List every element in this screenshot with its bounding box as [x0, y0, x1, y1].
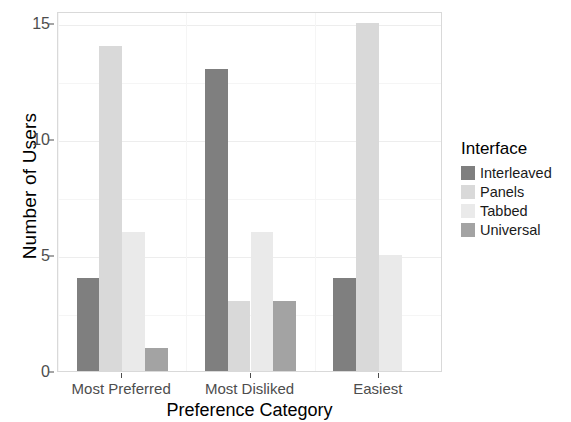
x-tick-mark-2: [378, 373, 379, 378]
y-tick-label-10: 10: [24, 131, 50, 149]
legend-swatch-tabbed: [461, 204, 475, 218]
bar-chart-figure: Number of Users 051015 Most PreferredMos…: [0, 0, 571, 422]
legend-swatch-panels: [461, 185, 475, 199]
bar-tabbed-most-preferred: [122, 232, 145, 371]
legend-item-universal: Universal: [461, 221, 569, 240]
bar-interleaved-most-disliked: [205, 69, 228, 371]
y-tick-mark-15: [49, 23, 54, 24]
bar-panels-most-preferred: [99, 46, 122, 371]
legend-label-panels: Panels: [480, 185, 524, 200]
x-tick-label-most-preferred: Most Preferred: [72, 380, 171, 397]
legend: Interface InterleavedPanelsTabbedUnivers…: [461, 140, 569, 240]
y-axis-ticks: 051015: [18, 0, 50, 422]
y-tick-mark-0: [49, 372, 54, 373]
x-tick-label-easiest: Easiest: [353, 380, 402, 397]
legend-label-universal: Universal: [480, 223, 540, 238]
bar-universal-most-disliked: [273, 301, 296, 371]
legend-entries: InterleavedPanelsTabbedUniversal: [461, 164, 569, 240]
x-tick-label-most-disliked: Most Disliked: [205, 380, 294, 397]
y-tick-label-5: 5: [24, 247, 50, 265]
gridline-vertical-2: [315, 13, 316, 371]
y-tick-label-15: 15: [24, 15, 50, 33]
gridline-major-15: [58, 25, 441, 26]
legend-title: Interface: [461, 140, 569, 159]
legend-item-tabbed: Tabbed: [461, 202, 569, 221]
bar-tabbed-most-disliked: [251, 232, 274, 371]
x-tick-mark-1: [250, 373, 251, 378]
bar-panels-easiest: [356, 23, 379, 371]
x-axis-title: Preference Category: [57, 400, 442, 421]
bar-interleaved-easiest: [333, 278, 356, 371]
legend-swatch-universal: [461, 223, 475, 237]
legend-swatch-interleaved: [461, 166, 475, 180]
bar-universal-most-preferred: [145, 348, 168, 371]
plot-panel: [57, 12, 442, 372]
bar-panels-most-disliked: [228, 301, 251, 371]
legend-item-panels: Panels: [461, 183, 569, 202]
bar-tabbed-easiest: [379, 255, 402, 371]
y-tick-mark-5: [49, 255, 54, 256]
legend-label-tabbed: Tabbed: [480, 204, 528, 219]
y-tick-mark-10: [49, 139, 54, 140]
legend-item-interleaved: Interleaved: [461, 164, 569, 183]
x-tick-mark-0: [121, 373, 122, 378]
y-tick-label-0: 0: [24, 363, 50, 381]
legend-label-interleaved: Interleaved: [480, 166, 552, 181]
bar-interleaved-most-preferred: [77, 278, 100, 371]
gridline-vertical-0: [58, 13, 59, 371]
gridline-vertical-1: [186, 13, 187, 371]
